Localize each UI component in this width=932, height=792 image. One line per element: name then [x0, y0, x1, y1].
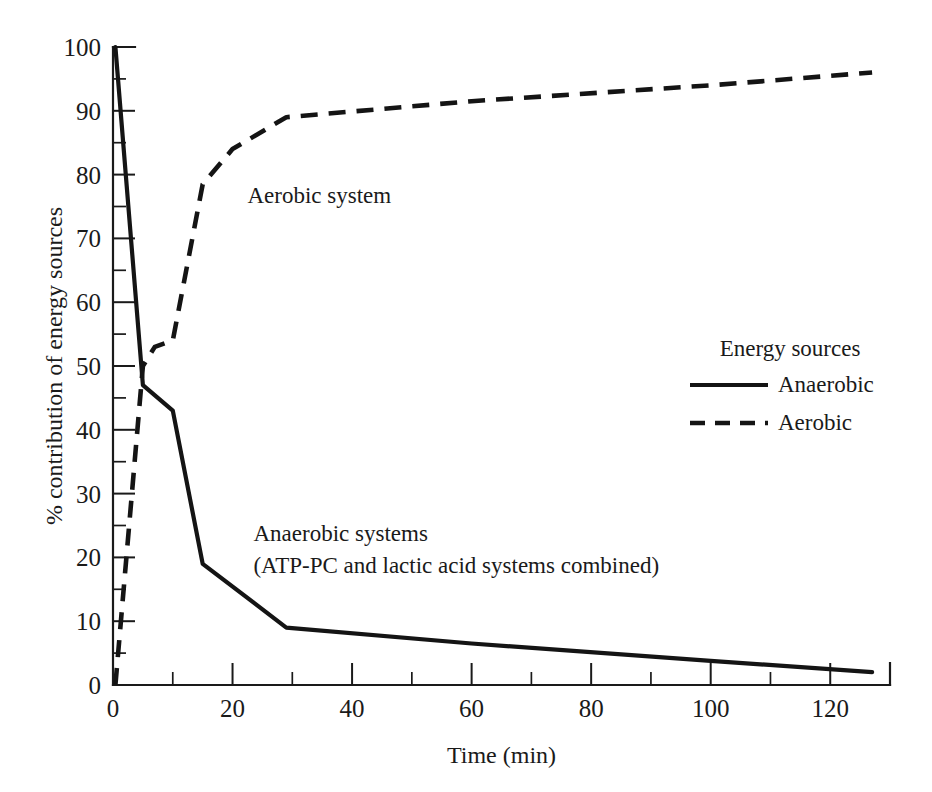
energy-systems-chart: 0102030405060708090100 020406080100120 A… — [0, 0, 932, 792]
x-tick-label: 80 — [579, 695, 604, 722]
x-tick-label: 0 — [107, 695, 120, 722]
x-tick-label: 100 — [692, 695, 730, 722]
x-tick-label: 120 — [811, 695, 849, 722]
x-tick-label: 60 — [459, 695, 484, 722]
y-tick-label: 60 — [76, 289, 101, 316]
y-tick-label: 50 — [76, 353, 101, 380]
y-tick-label: 0 — [89, 672, 102, 699]
series-group — [115, 47, 872, 685]
legend: Energy sources Anaerobic Aerobic — [690, 336, 874, 435]
legend-label-anaerobic: Anaerobic — [778, 372, 874, 397]
legend-label-aerobic: Aerobic — [778, 410, 852, 435]
x-axis-ticks — [173, 663, 830, 685]
y-tick-label: 20 — [76, 544, 101, 571]
annotation-anaerobic-line2: (ATP-PC and lactic acid systems combined… — [253, 553, 659, 578]
y-tick-label: 40 — [76, 417, 101, 444]
y-tick-label: 80 — [76, 162, 101, 189]
legend-title: Energy sources — [720, 336, 861, 361]
y-tick-label: 70 — [76, 225, 101, 252]
chart-canvas: 0102030405060708090100 020406080100120 A… — [0, 0, 932, 792]
annotation-anaerobic-line1: Anaerobic systems — [253, 521, 427, 546]
x-tick-label: 20 — [220, 695, 245, 722]
axis-group — [113, 47, 890, 685]
y-tick-label: 10 — [76, 608, 101, 635]
y-tick-label: 30 — [76, 481, 101, 508]
y-axis-tick-labels: 0102030405060708090100 — [64, 34, 102, 699]
axis-end-caps — [113, 47, 890, 685]
y-tick-label: 90 — [76, 98, 101, 125]
x-tick-label: 40 — [340, 695, 365, 722]
series-line-aerobic — [115, 73, 872, 686]
x-axis-title: Time (min) — [447, 742, 556, 768]
annotation-aerobic-system: Aerobic system — [247, 183, 391, 208]
y-axis-title: % contribution of energy sources — [41, 207, 67, 525]
x-axis-tick-labels: 020406080100120 — [107, 695, 849, 722]
y-tick-label: 100 — [64, 34, 102, 61]
